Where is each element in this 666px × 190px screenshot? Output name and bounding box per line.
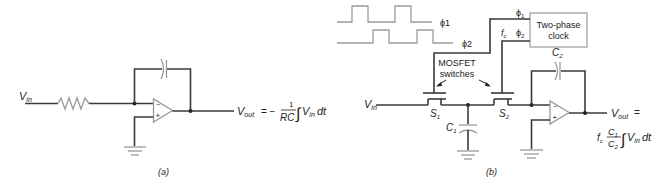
caption-a: (a) [158, 167, 169, 177]
svg-text:−: − [156, 101, 160, 108]
phi1-waveform-label: ϕ1 [440, 18, 450, 28]
svg-text:∫: ∫ [620, 131, 627, 149]
phi2-control-line [502, 41, 530, 93]
ground-wire-b [532, 120, 551, 149]
s1-label: S1 [430, 108, 440, 120]
svg-text:fc: fc [597, 132, 603, 144]
output-equation-a: Vout = − 1 RC ∫ Vin dt [237, 100, 327, 123]
phi2-waveform [337, 30, 453, 43]
svg-text:C2: C2 [608, 139, 619, 150]
s2-label: S2 [499, 108, 510, 120]
svg-text:Vin: Vin [627, 131, 640, 144]
feedback-wire-left [135, 69, 163, 104]
vin-label-a: Vin [19, 90, 32, 103]
resistor-icon [58, 98, 89, 109]
output-node-a [189, 109, 193, 113]
c1-label: C1 [446, 122, 457, 134]
mosfet-label-1: MOSFET [438, 58, 476, 68]
svg-text:∫: ∫ [295, 105, 302, 123]
svg-text:Vin: Vin [302, 105, 315, 118]
c2-wire-left [532, 71, 557, 105]
vin-label-b: Vin [364, 98, 377, 111]
svg-text:=: = [634, 107, 640, 118]
mosfet-s1-icon [423, 93, 446, 105]
svg-text:+: + [553, 113, 558, 122]
feedback-wire-right [167, 69, 191, 111]
svg-text:C1: C1 [608, 127, 618, 138]
opamp-icon-b: − + [550, 101, 569, 124]
c2-label: C2 [552, 47, 563, 59]
output-node-b [583, 111, 587, 115]
svg-text:−: − [553, 103, 557, 110]
mosfet-label-2: switches [440, 69, 475, 79]
caption-b: (b) [486, 167, 497, 177]
svg-text:dt: dt [642, 131, 652, 143]
fc-label: fc [501, 28, 507, 39]
clock-phi2-label: ϕ2 [516, 28, 525, 39]
svg-text:+: + [156, 111, 161, 120]
svg-text:Vout: Vout [237, 105, 255, 118]
ground-icon-b [520, 150, 543, 158]
svg-text:Vout: Vout [611, 107, 629, 120]
clock-box-label-1: Two-phase [536, 20, 580, 30]
svg-text:1: 1 [289, 100, 294, 109]
svg-text:= −: = − [261, 106, 276, 117]
two-phase-clock-box [530, 13, 587, 47]
phi2-waveform-label: ϕ2 [462, 39, 472, 49]
svg-text:dt: dt [317, 105, 327, 117]
integrator-diagrams: Vin − + Vout [0, 0, 666, 190]
c2-wire-right [561, 71, 585, 113]
phi1-waveform [337, 6, 432, 22]
clock-phi1-label: ϕ1 [516, 8, 525, 19]
ground-icon-a [124, 147, 146, 155]
figure-b-switched-capacitor-integrator: ϕ1 ϕ2 Two-phase clock ϕ1 fc ϕ2 MOSFET sw… [337, 6, 652, 177]
figure-a-analog-integrator: Vin − + Vout [19, 59, 327, 177]
ground-wire-a [135, 117, 154, 146]
mosfet-s2-icon [491, 93, 514, 105]
clock-box-label-2: clock [548, 31, 569, 41]
ground-icon-c1 [457, 151, 479, 159]
opamp-icon-a: − + [154, 99, 173, 122]
svg-text:RC: RC [280, 112, 295, 123]
mosfet-arrows-icon [436, 80, 491, 87]
